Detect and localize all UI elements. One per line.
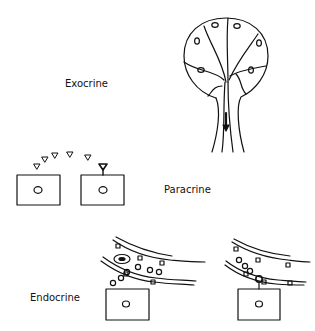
- granule-icon: [234, 24, 240, 29]
- target-cell: [238, 289, 280, 320]
- endocrine-target-diagram: [225, 239, 310, 320]
- granule-icon: [249, 67, 254, 73]
- label-paracrine: Paracrine: [164, 184, 211, 195]
- label-exocrine: Exocrine: [65, 78, 108, 89]
- nucleus-icon: [34, 187, 42, 194]
- diagram-canvas: [0, 0, 315, 331]
- granule-icon: [212, 23, 218, 28]
- nucleus-icon: [256, 301, 263, 307]
- exocrine-gland: [184, 18, 268, 152]
- target-cell: [81, 175, 124, 205]
- signal-molecule-icons: [34, 152, 107, 175]
- endocrine-secretion-diagram: [101, 237, 205, 320]
- nucleus-icon: [123, 301, 130, 307]
- nucleus-icon: [99, 187, 107, 194]
- endocrine-cell: [106, 289, 149, 320]
- secreting-cell: [17, 175, 60, 205]
- paracrine-diagram: [17, 152, 124, 205]
- granule-icon: [195, 38, 200, 44]
- granule-icon: [257, 40, 262, 46]
- label-endocrine: Endocrine: [30, 292, 80, 303]
